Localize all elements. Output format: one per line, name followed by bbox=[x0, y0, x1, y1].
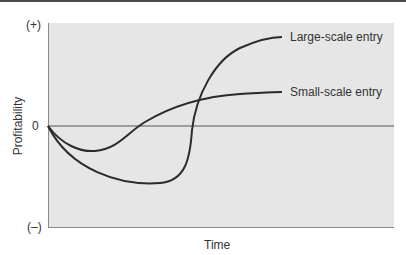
y-tick-zero: 0 bbox=[32, 119, 39, 133]
label-small-scale-entry: Small-scale entry bbox=[290, 85, 382, 99]
plot-background bbox=[48, 23, 394, 227]
y-tick-plus: (+) bbox=[26, 18, 41, 32]
y-axis-title: Profitability bbox=[11, 97, 25, 156]
y-tick-minus: (–) bbox=[27, 220, 42, 234]
label-large-scale-entry: Large-scale entry bbox=[290, 30, 383, 44]
x-axis-title: Time bbox=[204, 238, 230, 252]
